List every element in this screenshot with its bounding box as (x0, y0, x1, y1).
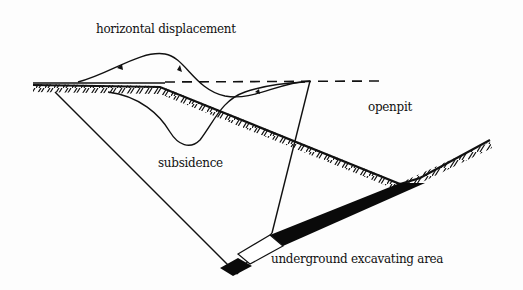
arrow-marker-icon (177, 65, 182, 72)
label-subsidence: subsidence (158, 155, 223, 170)
label-underground-excavating-area: underground excavating area (271, 251, 443, 266)
original-ground-line (33, 81, 382, 83)
diagram-drawing (0, 0, 523, 290)
label-openpit: openpit (368, 99, 412, 114)
label-horizontal-displacement: horizontal displacement (96, 21, 236, 36)
diagram-canvas: horizontal displacement openpit subsiden… (0, 0, 523, 290)
